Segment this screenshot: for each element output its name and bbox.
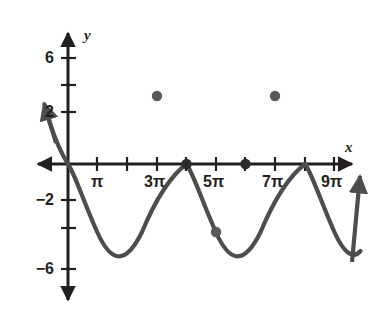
y-axis-label: y bbox=[84, 28, 91, 43]
point-zero-crossing-1 bbox=[181, 159, 191, 169]
x-tick-label-5pi: 5π bbox=[203, 174, 224, 190]
graph-figure: y x 6 2 −2 −6 π 3π 5π 7π 9π bbox=[0, 0, 376, 326]
y-tick-label-minus-6: −6 bbox=[20, 261, 54, 277]
point-minimum-1 bbox=[211, 227, 221, 237]
point-maximum-1 bbox=[152, 91, 162, 101]
plot-canvas bbox=[0, 0, 376, 326]
y-tick-label-minus-2: −2 bbox=[20, 192, 54, 208]
x-axis-label: x bbox=[345, 140, 353, 155]
y-tick-label-2: 2 bbox=[28, 104, 54, 120]
x-tick-label-pi: π bbox=[91, 174, 103, 190]
curve-right-arrow bbox=[352, 176, 360, 262]
point-maximum-2 bbox=[270, 91, 280, 101]
y-tick-label-6: 6 bbox=[28, 50, 54, 66]
x-tick-label-7pi: 7π bbox=[262, 174, 283, 190]
x-tick-label-3pi: 3π bbox=[144, 174, 165, 190]
x-tick-label-9pi: 9π bbox=[321, 174, 342, 190]
point-zero-crossing-2 bbox=[240, 159, 250, 169]
